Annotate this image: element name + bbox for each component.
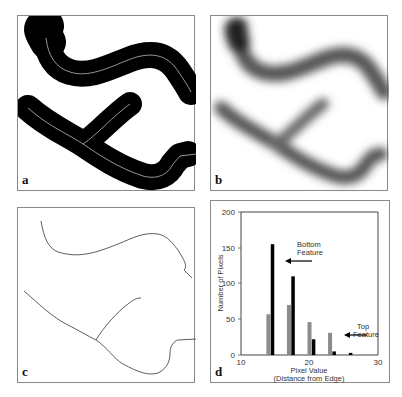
skeleton-image: [18, 208, 196, 384]
y-tick-200: 200: [222, 208, 236, 217]
panel-a-binary: a: [17, 15, 195, 191]
bar-bottom-feature: [291, 276, 295, 355]
bar-bottom-feature: [349, 353, 353, 355]
panel-d-histogram: 200 150 100 50 0 10 20 30 Pixel Value (D…: [210, 200, 390, 383]
bar-top-feature: [308, 322, 312, 355]
panel-label-c: c: [22, 364, 28, 380]
x-axis-sublabel: (Distance from Edge): [274, 374, 345, 383]
x-tick-30: 30: [374, 358, 383, 367]
bar-top-feature: [287, 305, 291, 355]
bar-bottom-feature: [271, 244, 275, 355]
annotation-bottom-line2: Feature: [297, 248, 323, 257]
bar-bottom-feature: [312, 339, 316, 355]
bar-top-feature: [328, 333, 332, 355]
y-tick-150: 150: [222, 244, 236, 253]
x-tick-10: 10: [237, 358, 246, 367]
panel-c-skeleton: c: [17, 207, 195, 383]
binary-features-image: [18, 16, 196, 192]
y-tick-0: 0: [231, 351, 236, 360]
y-tick-50: 50: [226, 315, 235, 324]
arrow-bottom-feature: [285, 258, 312, 264]
bar-top-feature: [266, 314, 270, 355]
panel-b-distance-map: b: [210, 15, 388, 191]
histogram-chart: 200 150 100 50 0 10 20 30 Pixel Value (D…: [211, 201, 391, 384]
y-axis-label: Number of Pixels: [216, 254, 225, 311]
panel-label-a: a: [22, 172, 29, 188]
panel-label-b: b: [215, 172, 222, 188]
bar-bottom-feature: [332, 351, 336, 355]
panel-label-d: d: [215, 364, 222, 380]
distance-map-image: [211, 16, 389, 192]
